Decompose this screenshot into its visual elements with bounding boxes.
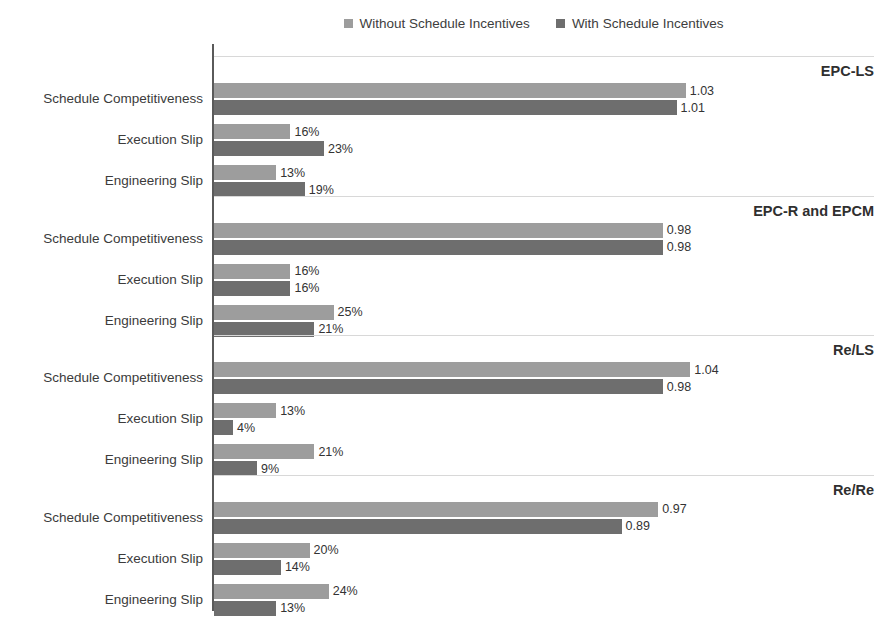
category-label: Schedule Competitiveness [0, 91, 203, 106]
chart-category-row: Execution Slip13%4% [0, 403, 887, 435]
chart-group: Re/LSSchedule Competitiveness1.040.98Exe… [0, 335, 887, 475]
bar-row-with: 0.98 [214, 240, 874, 255]
bar-value-label: 1.04 [690, 363, 718, 377]
bar-value-label: 23% [324, 142, 353, 156]
bar-value-label: 16% [290, 281, 319, 295]
bar-with[interactable] [214, 240, 663, 255]
chart-group: Re/ReSchedule Competitiveness0.970.89Exe… [0, 475, 887, 615]
chart-category-row: Execution Slip20%14% [0, 543, 887, 575]
bar-without[interactable] [214, 124, 290, 139]
bar-without[interactable] [214, 584, 329, 599]
bar-row-without: 20% [214, 543, 874, 558]
bar-row-without: 13% [214, 165, 874, 180]
bar-with[interactable] [214, 560, 281, 575]
bar-without[interactable] [214, 165, 276, 180]
category-label: Engineering Slip [0, 452, 203, 467]
category-label: Execution Slip [0, 411, 203, 426]
bar-row-without: 1.03 [214, 83, 874, 98]
bar-value-label: 25% [334, 305, 363, 319]
bar-value-label: 13% [276, 601, 305, 615]
bar-without[interactable] [214, 83, 686, 98]
group-separator-line [214, 475, 874, 476]
bar-row-without: 0.98 [214, 223, 874, 238]
chart-category-row: Schedule Competitiveness1.031.01 [0, 83, 887, 115]
bar-with[interactable] [214, 601, 276, 616]
bar-row-without: 16% [214, 264, 874, 279]
chart-group: EPC-R and EPCMSchedule Competitiveness0.… [0, 196, 887, 336]
category-label: Schedule Competitiveness [0, 231, 203, 246]
chart-category-row: Schedule Competitiveness1.040.98 [0, 362, 887, 394]
chart-category-row: Engineering Slip25%21% [0, 305, 887, 337]
chart-category-row: Schedule Competitiveness0.970.89 [0, 502, 887, 534]
bar-value-label: 0.98 [663, 240, 691, 254]
bar-value-label: 0.98 [663, 380, 691, 394]
category-label: Schedule Competitiveness [0, 510, 203, 525]
bar-value-label: 0.98 [663, 223, 691, 237]
group-title: Re/Re [833, 482, 874, 498]
chart-category-row: Engineering Slip24%13% [0, 584, 887, 616]
category-label: Execution Slip [0, 272, 203, 287]
category-label: Execution Slip [0, 132, 203, 147]
group-separator-line [214, 196, 874, 197]
bar-with[interactable] [214, 519, 622, 534]
bar-row-with: 13% [214, 601, 874, 616]
chart-category-row: Execution Slip16%16% [0, 264, 887, 296]
bar-value-label: 13% [276, 166, 305, 180]
category-label: Schedule Competitiveness [0, 370, 203, 385]
bar-value-label: 1.03 [686, 84, 714, 98]
bar-value-label: 0.97 [658, 502, 686, 516]
bar-without[interactable] [214, 362, 690, 377]
bar-value-label: 0.89 [622, 519, 650, 533]
bar-row-with: 14% [214, 560, 874, 575]
bar-row-without: 1.04 [214, 362, 874, 377]
category-label: Engineering Slip [0, 173, 203, 188]
bar-with[interactable] [214, 141, 324, 156]
bar-row-without: 0.97 [214, 502, 874, 517]
chart-plot-area: EPC-LSSchedule Competitiveness1.031.01Ex… [0, 0, 887, 635]
bar-row-with: 16% [214, 281, 874, 296]
chart-category-row: Execution Slip16%23% [0, 124, 887, 156]
bar-row-without: 13% [214, 403, 874, 418]
group-separator-line [214, 335, 874, 336]
bar-value-label: 20% [310, 543, 339, 557]
bar-row-with: 0.98 [214, 379, 874, 394]
bar-value-label: 9% [257, 462, 279, 476]
bar-row-without: 16% [214, 124, 874, 139]
bar-without[interactable] [214, 264, 290, 279]
category-label: Engineering Slip [0, 313, 203, 328]
group-title: Re/LS [833, 342, 874, 358]
bar-without[interactable] [214, 403, 276, 418]
bar-row-with: 4% [214, 420, 874, 435]
bar-row-with: 0.89 [214, 519, 874, 534]
bar-row-without: 21% [214, 444, 874, 459]
bar-value-label: 21% [314, 322, 343, 336]
group-separator-line [214, 56, 874, 57]
group-title: EPC-R and EPCM [753, 203, 874, 219]
category-label: Engineering Slip [0, 592, 203, 607]
bar-value-label: 1.01 [677, 101, 705, 115]
category-label: Execution Slip [0, 551, 203, 566]
bar-with[interactable] [214, 281, 290, 296]
bar-without[interactable] [214, 543, 310, 558]
bar-without[interactable] [214, 502, 658, 517]
bar-value-label: 4% [233, 421, 255, 435]
bar-row-with: 23% [214, 141, 874, 156]
chart-category-row: Engineering Slip21%9% [0, 444, 887, 476]
bar-with[interactable] [214, 100, 677, 115]
bar-value-label: 13% [276, 404, 305, 418]
chart-group: EPC-LSSchedule Competitiveness1.031.01Ex… [0, 56, 887, 196]
bar-value-label: 21% [314, 445, 343, 459]
bar-value-label: 19% [305, 183, 334, 197]
bar-with[interactable] [214, 379, 663, 394]
bar-row-without: 24% [214, 584, 874, 599]
bar-row-without: 25% [214, 305, 874, 320]
bar-value-label: 24% [329, 584, 358, 598]
bar-without[interactable] [214, 223, 663, 238]
bar-without[interactable] [214, 305, 334, 320]
bar-value-label: 16% [290, 264, 319, 278]
bar-with[interactable] [214, 420, 233, 435]
chart-category-row: Engineering Slip13%19% [0, 165, 887, 197]
bar-row-with: 1.01 [214, 100, 874, 115]
bar-value-label: 14% [281, 560, 310, 574]
bar-without[interactable] [214, 444, 314, 459]
